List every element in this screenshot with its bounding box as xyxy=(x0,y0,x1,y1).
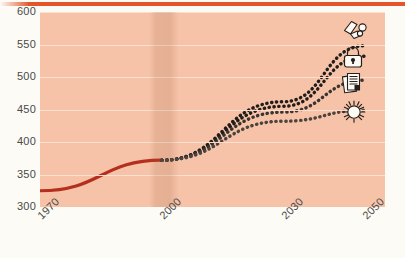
x-tick-label: 2050 xyxy=(360,195,386,221)
x-tick-label: 2000 xyxy=(157,195,183,221)
documents-icon xyxy=(341,70,373,96)
sun-icon xyxy=(341,98,373,124)
coal-fuel-icon xyxy=(341,18,373,44)
padlock-icon xyxy=(341,44,373,70)
chart-figure: 600550500450400350300 1970200020302050 xyxy=(0,0,405,258)
x-tick-label: 1970 xyxy=(35,195,61,221)
x-tick-label: 2030 xyxy=(279,195,305,221)
